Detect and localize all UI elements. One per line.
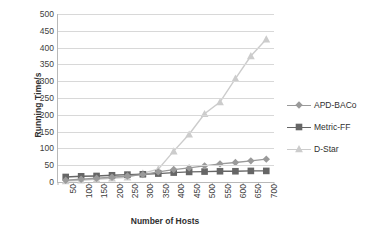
data-point-marker (216, 98, 224, 105)
x-axis-tick-label: 550 (223, 184, 233, 198)
gridline (58, 115, 274, 116)
gridline (58, 14, 274, 15)
y-axis-tick-label: 150 (40, 127, 54, 137)
data-point-marker (295, 145, 303, 152)
y-axis-tick-label: 400 (40, 43, 54, 53)
y-axis-tick-label: 200 (40, 110, 54, 120)
chart-container: Running Time/s 0501001502002503003504004… (0, 0, 381, 235)
y-axis-tick-label: 250 (40, 93, 54, 103)
legend-item-d-star[interactable]: D-Star (287, 138, 381, 160)
y-axis-tick-label: 100 (40, 143, 54, 153)
chart-legend: APD-BACoMetric-FFD-Star (287, 94, 381, 160)
y-axis-tick-label: 450 (40, 26, 54, 36)
data-point-marker (263, 168, 270, 175)
data-point-marker (295, 101, 302, 108)
y-axis-tick-label: 50 (45, 160, 54, 170)
x-axis-tick-label: 700 (269, 184, 279, 198)
legend-label: APD-BACo (311, 100, 357, 110)
plot-area (57, 14, 274, 183)
x-axis-tick-label: 650 (253, 184, 263, 198)
y-axis-tick-label: 350 (40, 59, 54, 69)
gridline (58, 64, 274, 65)
x-axis-title: Number of Hosts (57, 216, 273, 226)
data-point-marker (263, 155, 270, 162)
y-axis-tick-label: 500 (40, 9, 54, 19)
gridline (58, 132, 274, 133)
y-axis-tick-label: 300 (40, 76, 54, 86)
legend-label: D-Star (311, 144, 339, 154)
data-point-marker (247, 157, 254, 164)
data-point-marker (262, 35, 270, 42)
x-axis-tick-label: 450 (192, 184, 202, 198)
gridline (58, 48, 274, 49)
legend-marker-triangle-icon (287, 144, 311, 154)
gridline (58, 98, 274, 99)
x-axis-tick-label: 100 (84, 184, 94, 198)
x-axis-tick-label: 300 (145, 184, 155, 198)
x-axis-tick-label: 200 (115, 184, 125, 198)
x-axis-tick-label: 150 (99, 184, 109, 198)
gridline (58, 165, 274, 166)
legend-label: Metric-FF (311, 122, 350, 132)
legend-item-apd-baco[interactable]: APD-BACo (287, 94, 381, 116)
legend-marker-square-icon (287, 122, 311, 132)
y-axis-tick-label: 0 (49, 177, 54, 187)
y-axis-tick-labels: 050100150200250300350400450500 (22, 0, 54, 235)
x-axis-tick-label: 350 (161, 184, 171, 198)
x-axis-tick-label: 600 (238, 184, 248, 198)
gridline (58, 31, 274, 32)
gridline (58, 148, 274, 149)
x-axis-tick-labels: 5010015020025030035040045050055060065070… (57, 184, 273, 218)
data-point-marker (216, 160, 223, 167)
data-point-marker (296, 124, 303, 131)
x-axis-tick-label: 50 (68, 184, 78, 193)
x-axis-tick-label: 250 (130, 184, 140, 198)
data-point-marker (217, 168, 224, 175)
data-point-marker (248, 168, 255, 175)
x-axis-tick-label: 400 (176, 184, 186, 198)
x-axis-tick-label: 500 (207, 184, 217, 198)
gridline (58, 81, 274, 82)
legend-item-metric-ff[interactable]: Metric-FF (287, 116, 381, 138)
data-point-marker (232, 168, 239, 175)
legend-marker-diamond-icon (287, 100, 311, 110)
